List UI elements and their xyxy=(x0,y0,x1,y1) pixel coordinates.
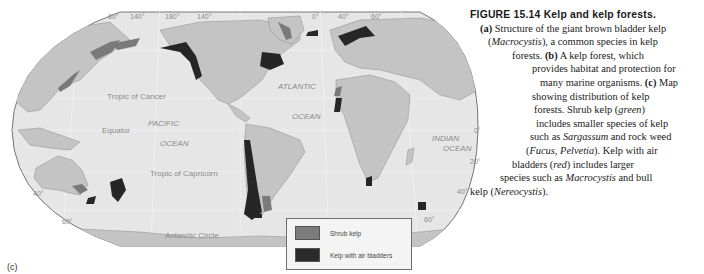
caption-text: Macrocystis xyxy=(566,172,616,183)
caption-text: forests. Shrub kelp ( xyxy=(534,104,618,115)
caption-text: ) includes larger xyxy=(567,159,634,170)
caption-line: forests. Shrub kelp (green) xyxy=(470,103,702,117)
label-indian-ocean: OCEAN xyxy=(443,144,472,153)
caption-text: Macrocystis xyxy=(491,36,541,47)
caption-line: many marine organisms. (c) Map xyxy=(470,76,702,90)
caption-text: many marine organisms. xyxy=(540,77,645,88)
legend-item-air-bladder-kelp: Kelp with air bladders xyxy=(295,248,392,262)
label-tropic-of-capricorn: Tropic of Capricorn xyxy=(150,169,218,178)
figure-title: FIGURE 15.14 Kelp and kelp forests. xyxy=(470,8,702,22)
degree-label: 40° xyxy=(457,188,468,195)
label-equator: Equator xyxy=(102,126,130,135)
caption-line: provides habitat and protection for xyxy=(470,62,702,76)
caption-text: Structure of the giant brown bladder kel… xyxy=(492,23,666,34)
caption-text: Sargassum xyxy=(563,131,608,142)
caption-text: (a) xyxy=(480,23,492,34)
caption-text: provides habitat and protection for xyxy=(532,63,676,74)
caption-text: and bull xyxy=(616,172,652,183)
figure-caption: FIGURE 15.14 Kelp and kelp forests. (a) … xyxy=(470,8,702,198)
caption-text: showing distribution of kelp xyxy=(532,91,649,102)
label-atlantic: ATLANTIC xyxy=(277,82,316,91)
degree-label: 40° xyxy=(33,190,44,197)
caption-text: ). Kelp with air xyxy=(594,145,657,156)
degree-label: 60° xyxy=(62,218,73,225)
caption-text: (b) xyxy=(545,50,558,61)
legend-swatch-shrub-kelp xyxy=(295,226,320,240)
caption-line: includes smaller species of kelp xyxy=(470,117,702,131)
degree-label: 60° xyxy=(424,216,435,223)
caption-line: kelp (Nereocystis). xyxy=(470,185,702,199)
caption-text: Nereocystis xyxy=(494,186,542,197)
caption-text: forests. xyxy=(512,50,545,61)
degree-label: 40° xyxy=(338,13,349,20)
caption-line: (a) Structure of the giant brown bladder… xyxy=(470,22,702,36)
map-legend: Shrub kelp Kelp with air bladders xyxy=(286,218,412,270)
label-antarctic-circle: Antarctic Circle xyxy=(165,231,219,240)
caption-text: ). xyxy=(542,186,548,197)
degree-label: 80° xyxy=(108,13,119,20)
caption-text: bladders ( xyxy=(512,159,553,170)
caption-line: forests. (b) A kelp forest, which xyxy=(470,49,702,63)
caption-text: Fucus, Pelvetia xyxy=(529,145,594,156)
caption-text: such as xyxy=(530,131,563,142)
caption-text: species such as xyxy=(500,172,566,183)
caption-text: and rock weed xyxy=(608,131,671,142)
caption-text: ) xyxy=(642,104,645,115)
caption-text: ), a common species in kelp xyxy=(542,36,658,47)
degree-label: 140° xyxy=(130,13,145,20)
caption-line: species such as Macrocystis and bull xyxy=(470,171,702,185)
legend-swatch-air-bladder-kelp xyxy=(295,248,320,262)
label-pacific-ocean: OCEAN xyxy=(160,139,189,148)
caption-line: such as Sargassum and rock weed xyxy=(470,130,702,144)
caption-text: kelp ( xyxy=(470,186,494,197)
degree-label: 180° xyxy=(165,13,180,20)
caption-text: Map xyxy=(656,77,678,88)
degree-label: 0° xyxy=(312,13,319,20)
legend-label: Kelp with air bladders xyxy=(330,252,392,259)
legend-label: Shrub kelp xyxy=(330,230,361,237)
label-atlantic-ocean: OCEAN xyxy=(292,112,321,121)
panel-label: (c) xyxy=(7,262,18,272)
caption-text: green xyxy=(618,104,641,115)
legend-item-shrub-kelp: Shrub kelp xyxy=(295,226,361,240)
caption-line: showing distribution of kelp xyxy=(470,90,702,104)
caption-text: includes smaller species of kelp xyxy=(536,118,668,129)
degree-label: 60° xyxy=(371,13,382,20)
label-pacific: PACIFIC xyxy=(148,119,179,128)
caption-line: (Macrocystis), a common species in kelp xyxy=(470,35,702,49)
caption-line: bladders (red) includes larger xyxy=(470,158,702,172)
caption-text: A kelp forest, which xyxy=(558,50,644,61)
label-tropic-of-cancer: Tropic of Cancer xyxy=(107,92,166,101)
caption-text: (c) xyxy=(645,77,657,88)
caption-body: (a) Structure of the giant brown bladder… xyxy=(470,22,702,199)
caption-text: red xyxy=(553,159,566,170)
caption-line: (Fucus, Pelvetia). Kelp with air xyxy=(470,144,702,158)
label-indian: INDIAN xyxy=(432,134,459,143)
degree-label: 140° xyxy=(197,13,212,20)
